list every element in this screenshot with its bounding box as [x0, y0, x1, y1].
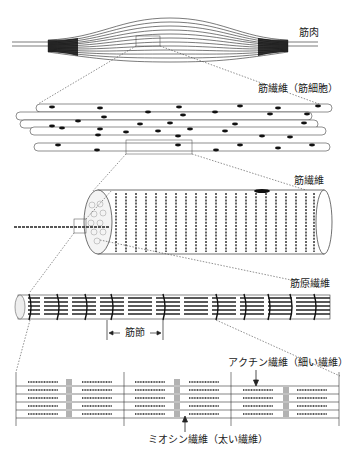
label-myosin: ミオシン繊維（太い繊維） [148, 435, 268, 445]
label-muscle-fiber: 筋繊維 [294, 176, 324, 186]
label-muscle-fiber-cell: 筋繊維（筋細胞） [258, 84, 338, 94]
sarcomere-filaments [16, 372, 339, 426]
label-muscle: 筋肉 [299, 28, 319, 38]
label-myofibril: 筋原繊維 [290, 279, 330, 289]
myofibril [15, 294, 330, 320]
muscle-structure-diagram [0, 0, 351, 456]
myosin-actin-rows [28, 382, 327, 414]
label-actin: アクチン繊維（細い繊維） [228, 358, 348, 368]
pointer-arrows [183, 370, 259, 432]
label-sarcomere: 筋節 [125, 328, 145, 338]
